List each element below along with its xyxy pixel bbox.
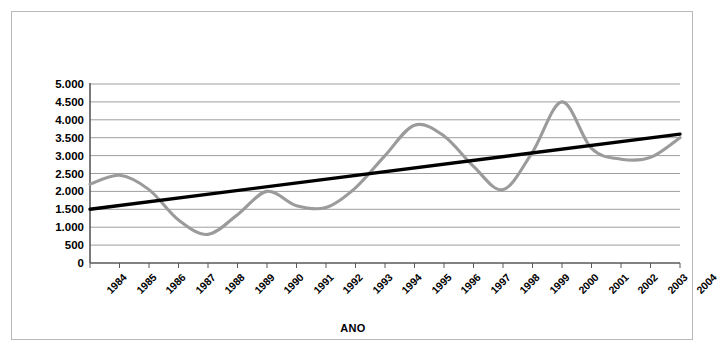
x-axis-tick-label: 1989 <box>251 271 276 296</box>
x-axis-tick-label: 2003 <box>664 271 689 296</box>
x-axis-tick-label: 2002 <box>635 271 660 296</box>
x-axis-tick-label: 2001 <box>605 271 630 296</box>
x-axis-tick-label: 2000 <box>576 271 601 296</box>
x-axis-tick-label: 1996 <box>458 271 483 296</box>
x-axis-tick-label: 1990 <box>281 271 306 296</box>
x-axis-tick-label: 2004 <box>694 271 719 296</box>
x-axis-tick-label: 1992 <box>340 271 365 296</box>
x-axis-tick-label: 1985 <box>133 271 158 296</box>
x-axis-tick-label: 1984 <box>104 271 129 296</box>
x-axis-tick-label: 1997 <box>487 271 512 296</box>
x-axis-tick-label: 1987 <box>192 271 217 296</box>
x-axis-tick-label: 1993 <box>369 271 394 296</box>
x-axis-tick-label: 1998 <box>517 271 542 296</box>
x-axis-tick-label: 1991 <box>310 271 335 296</box>
x-axis-tick-label: 1988 <box>222 271 247 296</box>
x-axis-tick-label: 1995 <box>428 271 453 296</box>
x-axis-tick-label: 1994 <box>399 271 424 296</box>
x-axis-tick-label: 1999 <box>546 271 571 296</box>
x-axis-title: ANO <box>0 322 706 334</box>
x-axis-tick-label: 1986 <box>163 271 188 296</box>
